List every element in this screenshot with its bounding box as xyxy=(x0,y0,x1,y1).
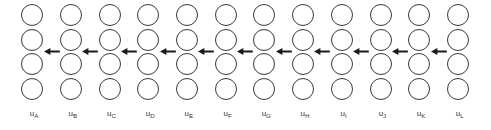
node-circle xyxy=(370,29,392,51)
node-circle xyxy=(331,4,353,26)
node-circle xyxy=(292,53,314,75)
flow-arrow-left xyxy=(82,47,98,56)
node-circle xyxy=(99,4,121,26)
node-circle xyxy=(447,4,469,26)
column-label-f: uF xyxy=(223,110,231,119)
node-circle xyxy=(292,4,314,26)
node-column-k: uK xyxy=(408,0,434,130)
node-circle xyxy=(137,29,159,51)
node-column-l: uL xyxy=(447,0,473,130)
node-circle xyxy=(408,53,430,75)
node-circle xyxy=(176,53,198,75)
node-circle xyxy=(21,29,43,51)
node-circle xyxy=(60,78,82,100)
node-circle xyxy=(99,78,121,100)
node-column-h: uH xyxy=(292,0,318,130)
node-circle xyxy=(99,29,121,51)
node-circle xyxy=(370,4,392,26)
node-circle xyxy=(447,29,469,51)
node-circle xyxy=(215,4,237,26)
label-subscript: A xyxy=(34,112,38,119)
node-circle xyxy=(176,78,198,100)
node-column-e: uE xyxy=(176,0,202,130)
node-circle xyxy=(60,4,82,26)
flow-arrow-left xyxy=(160,47,176,56)
node-circle xyxy=(370,78,392,100)
node-circle xyxy=(253,4,275,26)
node-circle xyxy=(408,78,430,100)
column-label-b: uB xyxy=(69,110,78,119)
column-label-a: uA xyxy=(30,110,39,119)
label-subscript: L xyxy=(460,112,464,119)
flow-arrow-left xyxy=(198,47,214,56)
node-circle xyxy=(331,53,353,75)
column-label-e: uE xyxy=(185,110,194,119)
node-circle xyxy=(292,78,314,100)
node-column-f: uF xyxy=(215,0,241,130)
flow-arrow-left xyxy=(237,47,253,56)
node-column-a: uA xyxy=(21,0,47,130)
flow-arrow-left xyxy=(121,47,137,56)
node-circle xyxy=(447,53,469,75)
flow-arrow-left xyxy=(276,47,292,56)
column-label-k: uK xyxy=(417,110,426,119)
node-column-g: uG xyxy=(253,0,279,130)
column-label-c: uC xyxy=(107,110,116,119)
label-subscript: H xyxy=(305,112,310,119)
label-subscript: G xyxy=(266,112,271,119)
node-circle xyxy=(21,53,43,75)
flow-arrow-left xyxy=(431,47,447,56)
node-column-c: uC xyxy=(99,0,125,130)
node-circle xyxy=(331,29,353,51)
node-circle xyxy=(99,53,121,75)
node-circle xyxy=(60,53,82,75)
label-subscript: I xyxy=(345,112,347,119)
node-circle xyxy=(253,78,275,100)
node-circle xyxy=(253,53,275,75)
node-circle xyxy=(176,29,198,51)
node-circle xyxy=(215,78,237,100)
flow-arrow-left xyxy=(314,47,330,56)
label-subscript: J xyxy=(383,112,386,119)
node-circle xyxy=(21,78,43,100)
node-circle xyxy=(176,4,198,26)
node-column-d: uD xyxy=(137,0,163,130)
label-subscript: E xyxy=(189,112,193,119)
column-label-h: uH xyxy=(301,110,310,119)
node-circle xyxy=(292,29,314,51)
label-subscript: B xyxy=(73,112,77,119)
column-label-g: uG xyxy=(262,110,271,119)
column-label-l: uL xyxy=(456,110,464,119)
node-circle xyxy=(215,53,237,75)
node-circle xyxy=(21,4,43,26)
node-column-j: uJ xyxy=(370,0,396,130)
flow-arrow-left xyxy=(44,47,60,56)
label-subscript: D xyxy=(150,112,155,119)
node-circle xyxy=(60,29,82,51)
column-label-j: uJ xyxy=(379,110,387,119)
node-circle xyxy=(137,53,159,75)
label-subscript: K xyxy=(421,112,425,119)
node-circle xyxy=(215,29,237,51)
flow-arrow-left xyxy=(353,47,369,56)
node-chain-diagram: uAuBuCuDuEuFuGuHuIuJuKuL xyxy=(0,0,491,130)
node-circle xyxy=(447,78,469,100)
column-label-d: uD xyxy=(146,110,155,119)
label-subscript: C xyxy=(111,112,116,119)
label-subscript: F xyxy=(228,112,232,119)
flow-arrow-left xyxy=(392,47,408,56)
node-circle xyxy=(253,29,275,51)
node-circle xyxy=(408,4,430,26)
node-circle xyxy=(370,53,392,75)
node-column-b: uB xyxy=(60,0,86,130)
node-circle xyxy=(331,78,353,100)
node-circle xyxy=(408,29,430,51)
column-label-i: uI xyxy=(341,110,347,119)
node-circle xyxy=(137,78,159,100)
node-column-i: uI xyxy=(331,0,357,130)
node-circle xyxy=(137,4,159,26)
